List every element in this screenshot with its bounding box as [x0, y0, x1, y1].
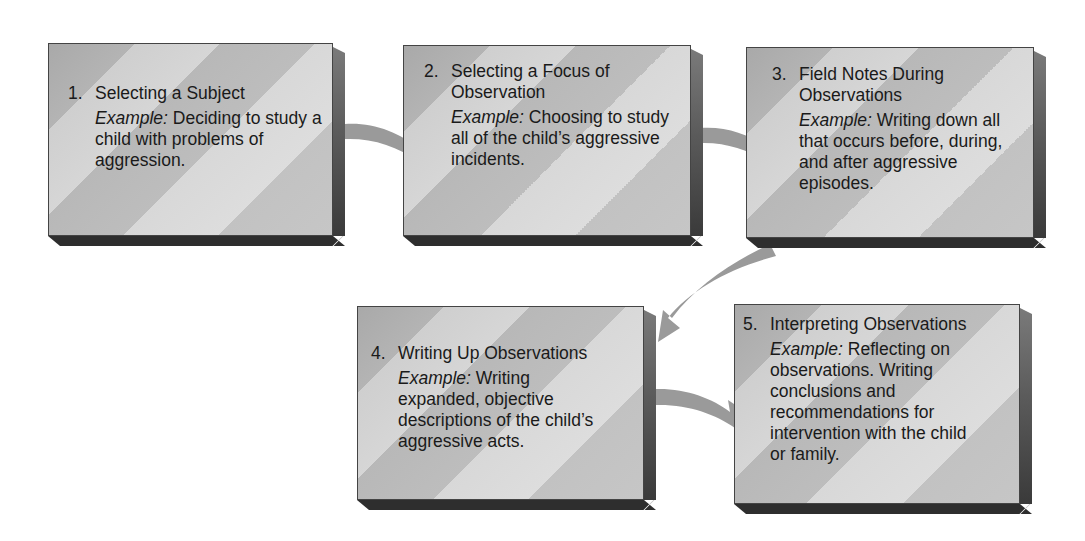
step-box-edge-highlight: [642, 500, 656, 510]
step-box-edge-highlight: [689, 236, 703, 246]
step-title: Selecting a Subject: [95, 83, 338, 104]
step-box-edge-highlight: [1018, 504, 1032, 514]
step-text: 4. Writing Up Observations Example: Writ…: [371, 343, 631, 452]
step-number: 4.: [371, 343, 398, 364]
step-title: Writing Up Observations: [398, 343, 631, 364]
example-label: Example:: [799, 110, 872, 130]
step-example: Example: Choosing to study all of the ch…: [451, 107, 674, 170]
step-example: Example: Writing down all that occurs be…: [799, 110, 1022, 194]
step-box-bottom: [357, 500, 656, 510]
step-number: 5.: [743, 314, 770, 335]
observation-process-diagram: 1. Selecting a Subject Example: Deciding…: [0, 0, 1085, 541]
example-label: Example:: [398, 368, 471, 388]
step-title: Field Notes During Observations: [799, 64, 1022, 106]
step-box-3: 3. Field Notes During Observations Examp…: [746, 47, 1046, 248]
step-box-2: 2. Selecting a Focus of Observation Exam…: [403, 45, 703, 246]
step-box-edge-highlight: [1032, 238, 1046, 248]
step-number: 1.: [68, 83, 95, 104]
step-example: Example: Writing expanded, objective des…: [398, 368, 598, 452]
step-number: 2.: [424, 61, 451, 103]
step-text: 5. Interpreting Observations Example: Re…: [743, 314, 1018, 465]
step-title: Interpreting Observations: [770, 314, 1018, 335]
step-box-side: [691, 49, 703, 236]
step-box-edge-highlight: [331, 236, 345, 246]
step-title: Selecting a Focus of Observation: [451, 61, 674, 103]
step-box-4: 4. Writing Up Observations Example: Writ…: [357, 306, 656, 510]
step-box-5: 5. Interpreting Observations Example: Re…: [734, 304, 1032, 514]
step-text: 3. Field Notes During Observations Examp…: [772, 64, 1022, 194]
step-box-bottom: [734, 504, 1032, 514]
example-label: Example:: [770, 339, 843, 359]
step-box-side: [644, 310, 656, 500]
step-example: Example: Deciding to study a child with …: [95, 108, 338, 171]
step-text: 1. Selecting a Subject Example: Deciding…: [68, 83, 338, 171]
example-label: Example:: [95, 108, 168, 128]
step-box-side: [1034, 51, 1046, 238]
step-box-bottom: [746, 238, 1046, 248]
step-text: 2. Selecting a Focus of Observation Exam…: [424, 61, 674, 170]
step-number: 3.: [772, 64, 799, 106]
step-example: Example: Reflecting on observations. Wri…: [770, 339, 985, 465]
step-box-1: 1. Selecting a Subject Example: Deciding…: [48, 43, 345, 246]
example-label: Example:: [451, 107, 524, 127]
step-box-side: [1020, 308, 1032, 504]
step-box-bottom: [48, 236, 345, 246]
step-box-bottom: [403, 236, 703, 246]
